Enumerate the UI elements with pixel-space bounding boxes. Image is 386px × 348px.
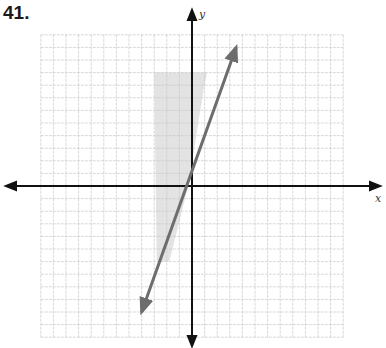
x-axis-label: x: [375, 192, 382, 205]
coordinate-graph: x y: [0, 0, 386, 348]
shaded-region: [154, 73, 207, 262]
y-axis-label: y: [198, 8, 206, 21]
